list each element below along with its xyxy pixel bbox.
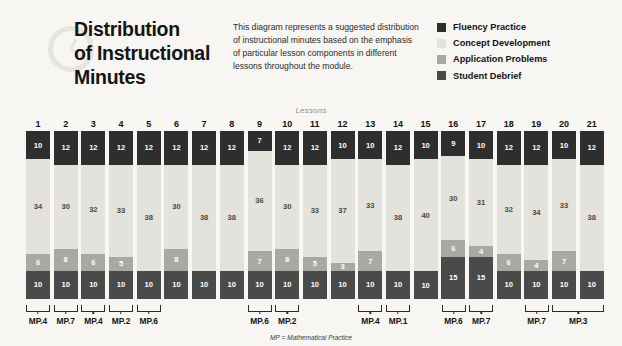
bar-segment-concept: 34: [524, 165, 548, 260]
lesson-column-10[interactable]: 101230810: [275, 117, 299, 303]
bar-segment-debrief: 10: [552, 271, 576, 299]
bar-segment-debrief: 10: [303, 271, 327, 299]
bar-segment-fluency: 12: [275, 131, 299, 165]
mp-label: MP.1: [386, 316, 410, 326]
bar-segment-concept: 33: [109, 165, 133, 257]
lesson-number-label: 19: [531, 117, 541, 131]
lesson-column-8[interactable]: 8123810: [220, 117, 244, 303]
stacked-bar[interactable]: 736710: [248, 131, 272, 299]
mp-bracket: [81, 305, 105, 312]
bar-segment-debrief: 15: [469, 257, 493, 299]
stacked-bar[interactable]: 1233510: [109, 131, 133, 299]
mathematical-practice-annotations: MP.4MP.7MP.4MP.2MP.6MP.6MP.2MP.4MP.1MP.6…: [26, 305, 604, 335]
bar-segment-application: 6: [497, 254, 521, 271]
stacked-bar[interactable]: 1033710: [552, 131, 576, 299]
bar-segment-debrief: 10: [54, 271, 78, 299]
lesson-column-17[interactable]: 171031415: [469, 117, 493, 303]
bar-segment-debrief: 10: [414, 271, 438, 299]
stacked-bar[interactable]: 1234410: [524, 131, 548, 299]
bar-segment-fluency: 10: [414, 131, 438, 159]
lesson-column-21[interactable]: 21123810: [580, 117, 604, 303]
stacked-bar[interactable]: 1034610: [26, 131, 50, 299]
bar-segment-debrief: 10: [137, 271, 161, 299]
mp-bracket: [469, 305, 493, 312]
bar-segment-debrief: 10: [275, 271, 299, 299]
mp-label: MP.2: [275, 316, 299, 326]
mp-bracket: [248, 305, 272, 312]
lesson-column-3[interactable]: 31232610: [81, 117, 105, 303]
lesson-number-label: 16: [448, 117, 458, 131]
stacked-bar[interactable]: 123810: [220, 131, 244, 299]
legend-item-student-debrief: Student Debrief: [437, 71, 617, 81]
stacked-bar[interactable]: 123810: [386, 131, 410, 299]
lesson-column-14[interactable]: 14123810: [386, 117, 410, 303]
lesson-column-1[interactable]: 11034610: [26, 117, 50, 303]
lesson-number-label: 9: [257, 117, 262, 131]
bar-segment-concept: 33: [303, 165, 327, 257]
stacked-bar[interactable]: 1033710: [358, 131, 382, 299]
mp-bracket: [109, 305, 133, 312]
stacked-bar[interactable]: 930615: [441, 131, 465, 299]
bar-segment-concept: 30: [275, 165, 299, 249]
stacked-bar[interactable]: 1232610: [81, 131, 105, 299]
bar-segment-application: 8: [275, 249, 299, 271]
lesson-column-20[interactable]: 201033710: [552, 117, 576, 303]
lesson-column-15[interactable]: 15104010: [414, 117, 438, 303]
bar-segment-fluency: 12: [137, 131, 161, 165]
mp-label: MP.7: [469, 316, 493, 326]
lesson-column-5[interactable]: 5123810: [137, 117, 161, 303]
stacked-bar[interactable]: 123810: [137, 131, 161, 299]
lesson-number-label: 12: [338, 117, 348, 131]
lesson-column-9[interactable]: 9736710: [248, 117, 272, 303]
lesson-column-16[interactable]: 16930615: [441, 117, 465, 303]
lesson-column-12[interactable]: 121037310: [331, 117, 355, 303]
stacked-bar[interactable]: 1230810: [164, 131, 188, 299]
stacked-bar[interactable]: 123810: [580, 131, 604, 299]
lesson-column-2[interactable]: 21230810: [54, 117, 78, 303]
bar-segment-concept: 38: [192, 165, 216, 271]
bar-segment-concept: 30: [164, 165, 188, 249]
bar-segment-fluency: 12: [109, 131, 133, 165]
stacked-bar[interactable]: 1232610: [497, 131, 521, 299]
lesson-column-6[interactable]: 61230810: [164, 117, 188, 303]
bar-segment-fluency: 10: [331, 131, 355, 159]
bar-segment-debrief: 15: [441, 257, 465, 299]
lesson-column-19[interactable]: 191234410: [524, 117, 548, 303]
stacked-bar[interactable]: 104010: [414, 131, 438, 299]
stacked-bar[interactable]: 1230810: [275, 131, 299, 299]
bar-segment-debrief: 10: [220, 271, 244, 299]
bar-segment-concept: 33: [358, 159, 382, 251]
bar-segment-fluency: 12: [220, 131, 244, 165]
lesson-column-7[interactable]: 7123810: [192, 117, 216, 303]
bar-segment-fluency: 12: [303, 131, 327, 165]
mp-annotation-mp-4: MP.4: [26, 305, 50, 326]
legend-item-application-problems: Application Problems: [437, 54, 617, 64]
legend-swatch-concept-development: [437, 39, 446, 48]
stacked-bar[interactable]: 123810: [192, 131, 216, 299]
lesson-column-18[interactable]: 181232610: [497, 117, 521, 303]
lesson-column-11[interactable]: 111233510: [303, 117, 327, 303]
bar-segment-debrief: 10: [331, 271, 355, 299]
mp-label: MP.6: [137, 316, 161, 326]
stacked-bar[interactable]: 1233510: [303, 131, 327, 299]
lesson-column-13[interactable]: 131033710: [358, 117, 382, 303]
stacked-bar[interactable]: 1230810: [54, 131, 78, 299]
stacked-bar[interactable]: 1037310: [331, 131, 355, 299]
page-title-line-3: Minutes: [74, 66, 224, 90]
header: Distribution of Instructional Minutes Th…: [0, 0, 622, 108]
lesson-number-label: 1: [35, 117, 40, 131]
mp-label: MP.7: [525, 316, 549, 326]
bar-segment-fluency: 10: [552, 131, 576, 159]
stacked-bar[interactable]: 1031415: [469, 131, 493, 299]
bar-segment-fluency: 7: [248, 131, 272, 151]
legend-label-fluency-practice: Fluency Practice: [453, 22, 526, 32]
lesson-number-label: 10: [282, 117, 292, 131]
bar-segment-debrief: 10: [164, 271, 188, 299]
lesson-number-label: 14: [393, 117, 403, 131]
lesson-number-label: 20: [559, 117, 569, 131]
mp-annotation-mp-4: MP.4: [358, 305, 382, 326]
lesson-column-4[interactable]: 41233510: [109, 117, 133, 303]
bar-segment-concept: 40: [414, 159, 438, 271]
lesson-number-label: 21: [587, 117, 597, 131]
bar-columns: 1103461021230810312326104123351051238106…: [26, 117, 604, 303]
